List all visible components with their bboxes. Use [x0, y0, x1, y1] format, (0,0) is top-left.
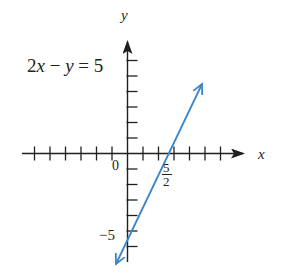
origin-label: 0: [112, 158, 119, 173]
x-axis-label: x: [257, 146, 265, 162]
x-intercept-label: 5 2: [162, 160, 172, 189]
x-intercept-numerator: 5: [163, 160, 170, 175]
x-axis: [22, 147, 243, 161]
graph-plot: y x 0 5 2 −5 2x − y = 5: [0, 0, 283, 274]
y-axis-label: y: [119, 7, 128, 23]
equation-label: 2x − y = 5: [27, 55, 103, 76]
line-2x-minus-y-equals-5: [116, 84, 202, 264]
y-intercept-label: −5: [99, 227, 115, 243]
x-intercept-denominator: 2: [163, 174, 170, 189]
